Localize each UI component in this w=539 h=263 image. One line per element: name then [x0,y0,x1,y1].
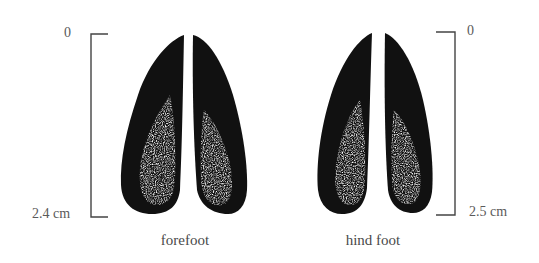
forefoot-scale-bracket [91,34,108,217]
forefoot-scale-top-label: 0 [64,26,71,40]
hind-foot-caption: hind foot [346,233,401,248]
hind-foot-scale-bracket [436,32,455,215]
forefoot-left-hoof-icon [121,35,184,214]
forefoot-right-hoof-icon [193,35,247,214]
hind-foot-scale-top-label: 0 [467,24,474,38]
hind-foot-scale-bottom-label: 2.5 cm [469,205,507,219]
forefoot-caption: forefoot [161,233,209,248]
hind-foot-right-hoof-icon [385,33,433,213]
hoof-prints-illustration [0,0,539,263]
forefoot-scale-bottom-label: 2.4 cm [32,207,70,221]
track-diagram: 0 2.4 cm 0 2.5 cm forefoot hind foot [0,0,539,263]
hind-foot-left-hoof-icon [318,33,372,214]
